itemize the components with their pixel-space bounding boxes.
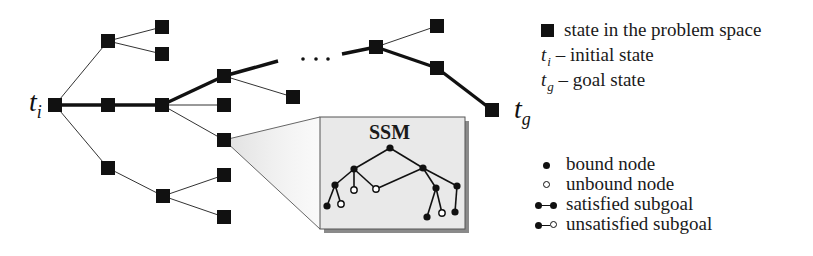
state-node-a2 xyxy=(101,98,115,112)
ssm-title: SSM xyxy=(369,121,410,144)
bound-node-r3 xyxy=(453,182,460,189)
legend-satisfied-text: satisfied subgoal xyxy=(566,193,693,214)
state-node-c3 xyxy=(217,133,231,147)
state-node-tg xyxy=(485,103,499,117)
legend-item-unbound: unbound node xyxy=(534,174,674,194)
ssm-zoom-wedge xyxy=(224,117,320,229)
initial-state-t: t xyxy=(29,86,37,117)
bound-node-r2 xyxy=(432,184,439,191)
unbound-node-r2b xyxy=(439,210,445,216)
unbound-node-icon xyxy=(534,180,560,192)
bound-node-icon xyxy=(534,160,560,172)
state-node-d1 xyxy=(286,90,300,104)
bound-node-l2 xyxy=(331,181,338,188)
legend-item-goal: tg – goal state xyxy=(541,70,645,92)
state-node-b3 xyxy=(155,98,169,112)
state-square-icon xyxy=(541,24,554,37)
state-node-b4 xyxy=(156,189,170,203)
path-ellipsis xyxy=(301,57,330,61)
state-node-a1 xyxy=(101,34,115,48)
initial-state-sub: i xyxy=(37,102,42,122)
state-node-b2 xyxy=(155,47,169,61)
state-node-ti xyxy=(48,98,62,112)
legend-initial-text: – initial state xyxy=(551,44,654,65)
bound-node-r3a xyxy=(451,208,458,215)
bound-node-l1 xyxy=(350,165,357,172)
legend-state-text: state in the problem space xyxy=(564,19,761,40)
legend-goal-sub: g xyxy=(547,79,554,94)
legend-item-initial: ti – initial state xyxy=(541,45,654,67)
goal-state-t: t xyxy=(514,93,522,124)
legend-unsatisfied-text: unsatisfied subgoal xyxy=(566,213,712,234)
legend-unbound-text: unbound node xyxy=(566,173,674,194)
legend-initial-sub: i xyxy=(547,54,551,69)
goal-state-label: tg xyxy=(514,93,531,125)
state-node-f2 xyxy=(430,61,444,75)
legend-item-state: state in the problem space xyxy=(541,20,761,40)
legend-goal-t: t xyxy=(541,69,546,90)
state-node-c2 xyxy=(217,98,231,112)
legend-initial-t: t xyxy=(541,44,546,65)
state-node-c5 xyxy=(217,210,231,224)
legend-goal-text: – goal state xyxy=(554,69,645,90)
unbound-node-l1b xyxy=(351,187,357,193)
unbound-node-m xyxy=(373,186,379,192)
state-node-a3 xyxy=(101,161,115,175)
state-node-f1 xyxy=(430,19,444,33)
unbound-node-l2b xyxy=(338,201,344,207)
state-node-c4 xyxy=(217,168,231,182)
goal-state-sub: g xyxy=(522,109,531,129)
bound-node-r xyxy=(386,144,393,151)
legend-item-bound: bound node xyxy=(534,154,655,174)
state-node-e1 xyxy=(369,40,383,54)
satisfied-subgoal-icon xyxy=(534,200,560,212)
bound-node-r2a xyxy=(423,213,430,220)
state-node-c1 xyxy=(217,69,231,83)
unsatisfied-subgoal-icon xyxy=(534,220,560,232)
bound-node-l2a xyxy=(323,202,330,209)
legend-item-unsatisfied: unsatisfied subgoal xyxy=(534,214,712,234)
state-node-b1 xyxy=(155,20,169,34)
legend-bound-text: bound node xyxy=(566,153,655,174)
legend-item-satisfied: satisfied subgoal xyxy=(534,194,693,214)
bound-node-r1 xyxy=(419,164,426,171)
initial-state-label: ti xyxy=(29,86,42,118)
